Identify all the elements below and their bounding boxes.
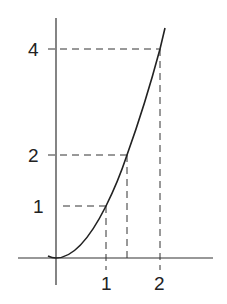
y-tick-2: 2 — [28, 145, 39, 166]
y-tick-1: 1 — [33, 196, 44, 217]
x-tick-1: 1 — [101, 273, 112, 294]
guide-lines — [48, 49, 160, 270]
y-tick-4: 4 — [28, 39, 39, 60]
parabola-chart: 4 2 1 1 2 — [0, 0, 227, 304]
x-tick-2: 2 — [154, 273, 165, 294]
